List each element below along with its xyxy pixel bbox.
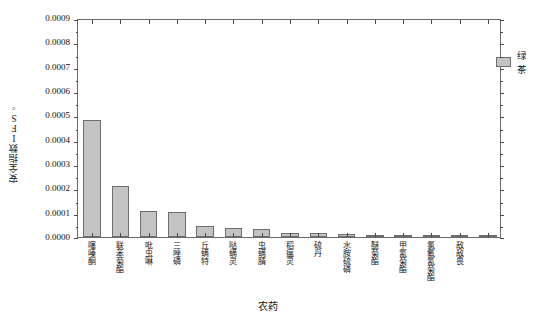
- y-axis-tick-mark-right: [500, 117, 504, 118]
- x-axis-tick-mark-top: [262, 20, 263, 24]
- x-axis-tick-mark-top: [347, 20, 348, 24]
- x-axis-tick-mark-top: [233, 20, 234, 24]
- x-axis-tick-mark: [177, 233, 178, 237]
- y-axis-tick-mark: [74, 142, 78, 143]
- y-axis-tick-mark-right: [500, 142, 504, 143]
- x-axis-tick-mark: [120, 233, 121, 237]
- y-axis-tick-label: 0.0006: [20, 86, 70, 96]
- y-axis-minor-tick-right: [500, 227, 503, 228]
- y-axis-tick-mark: [74, 69, 78, 70]
- y-axis-tick-label: 0.0001: [20, 208, 70, 218]
- plot-area: 绿茶: [77, 19, 501, 238]
- y-axis-tick-label: 0.0000: [20, 232, 70, 242]
- y-axis-tick-mark-right: [500, 190, 504, 191]
- chart-figure: 安全指数IFSc 0.00000.00010.00020.00030.00040…: [0, 0, 536, 319]
- x-axis-tick-mark: [92, 233, 93, 237]
- y-axis-minor-tick-right: [500, 57, 503, 58]
- x-axis-tick-mark: [205, 233, 206, 237]
- bar-series-green-tea: [78, 20, 500, 237]
- y-axis-minor-tick-right: [500, 105, 503, 106]
- x-axis-tick-mark-top: [92, 20, 93, 24]
- x-axis-tick-label: 甲氰菊酯: [398, 241, 407, 273]
- y-axis-tick-mark-right: [500, 20, 504, 21]
- y-axis-minor-tick: [76, 81, 79, 82]
- x-axis-tick-mark-top: [460, 20, 461, 24]
- y-axis-tick-mark-right: [500, 238, 504, 239]
- x-axis-tick-mark: [460, 233, 461, 237]
- legend-swatch-green-tea: [496, 57, 511, 67]
- y-axis-tick-label: 0.0002: [20, 183, 70, 193]
- y-axis-tick-mark: [74, 44, 78, 45]
- y-axis-minor-tick-right: [500, 203, 503, 204]
- x-axis-title: 农药: [0, 298, 536, 313]
- x-axis-tick-mark: [488, 233, 489, 237]
- x-axis-tick-label: 哒螨灵: [228, 241, 237, 265]
- x-axis-tick-mark: [431, 233, 432, 237]
- legend-label-green-tea: 绿茶: [517, 48, 532, 76]
- x-axis-tick-mark: [318, 233, 319, 237]
- y-axis-tick-mark-right: [500, 166, 504, 167]
- y-axis-tick-label: 0.0009: [20, 13, 70, 23]
- y-axis-tick-label: 0.0007: [20, 62, 70, 72]
- x-axis-tick-mark-top: [375, 20, 376, 24]
- x-axis-tick-mark-top: [318, 20, 319, 24]
- y-axis-tick-mark: [74, 238, 78, 239]
- y-axis-tick-mark: [74, 93, 78, 94]
- x-axis-tick-mark-top: [290, 20, 291, 24]
- y-axis-tick-mark-right: [500, 44, 504, 45]
- x-axis-tick-label: 稻瘟灵: [285, 241, 294, 265]
- y-axis-minor-tick-right: [500, 154, 503, 155]
- y-axis-tick-label: 0.0008: [20, 37, 70, 47]
- y-axis-minor-tick: [76, 105, 79, 106]
- y-axis-minor-tick-right: [500, 178, 503, 179]
- y-axis-tick-labels: 0.00000.00010.00020.00030.00040.00050.00…: [20, 0, 74, 319]
- y-axis-minor-tick-right: [500, 130, 503, 131]
- x-axis-tick-label: 硫丹: [313, 241, 322, 257]
- x-axis-tick-mark-top: [120, 20, 121, 24]
- x-axis-tick-mark: [149, 233, 150, 237]
- x-axis-tick-mark: [290, 233, 291, 237]
- y-axis-tick-mark-right: [500, 93, 504, 94]
- chart-legend: 绿茶: [496, 48, 532, 76]
- y-axis-tick-label: 0.0004: [20, 135, 70, 145]
- x-axis-tick-label: 水胺硫磷: [341, 241, 350, 273]
- x-axis-tick-mark-top: [205, 20, 206, 24]
- x-axis-tick-mark: [375, 233, 376, 237]
- bar: [83, 120, 101, 237]
- x-axis-tick-mark-top: [149, 20, 150, 24]
- y-axis-minor-tick-right: [500, 81, 503, 82]
- y-axis-minor-tick-right: [500, 32, 503, 33]
- y-axis-tick-mark: [74, 190, 78, 191]
- y-axis-tick-mark: [74, 20, 78, 21]
- y-axis-tick-label: 0.0003: [20, 159, 70, 169]
- y-axis-tick-mark-right: [500, 69, 504, 70]
- y-axis-tick-mark: [74, 215, 78, 216]
- y-axis-minor-tick: [76, 154, 79, 155]
- x-axis-tick-label: 丘螨特: [200, 241, 209, 265]
- x-axis-tick-label: 氯氟氰菊酯: [426, 241, 435, 281]
- x-axis-tick-label: 敌敌畏: [454, 241, 463, 265]
- x-axis-tick-mark-top: [431, 20, 432, 24]
- x-axis-tick-label: 联苯菊酯: [115, 241, 124, 273]
- x-axis-tick-label: 虫螨腈: [256, 241, 265, 265]
- y-axis-tick-mark: [74, 117, 78, 118]
- y-axis-minor-tick: [76, 130, 79, 131]
- y-axis-tick-label: 0.0005: [20, 110, 70, 120]
- x-axis-tick-label: 三唑磷: [171, 241, 180, 265]
- x-axis-tick-mark-top: [177, 20, 178, 24]
- x-axis-tick-label: 噻嗪酮: [87, 241, 96, 265]
- y-axis-tick-mark-right: [500, 215, 504, 216]
- y-axis-minor-tick: [76, 32, 79, 33]
- y-axis-tick-mark: [74, 166, 78, 167]
- x-axis-tick-labels: 噻嗪酮联苯菊酯吡虫啉三唑磷丘螨特哒螨灵虫螨腈稻瘟灵硫丹水胺硫磷醚菊酯甲氰菊酯氯氟…: [77, 241, 501, 299]
- x-axis-tick-mark: [262, 233, 263, 237]
- x-axis-tick-label: 吡虫啉: [143, 241, 152, 265]
- y-axis-minor-tick: [76, 203, 79, 204]
- x-axis-tick-mark: [233, 233, 234, 237]
- x-axis-tick-mark: [347, 233, 348, 237]
- y-axis-minor-tick: [76, 57, 79, 58]
- x-axis-tick-mark-top: [403, 20, 404, 24]
- y-axis-minor-tick: [76, 178, 79, 179]
- x-axis-tick-label: 醚菊酯: [369, 241, 378, 265]
- x-axis-tick-mark: [403, 233, 404, 237]
